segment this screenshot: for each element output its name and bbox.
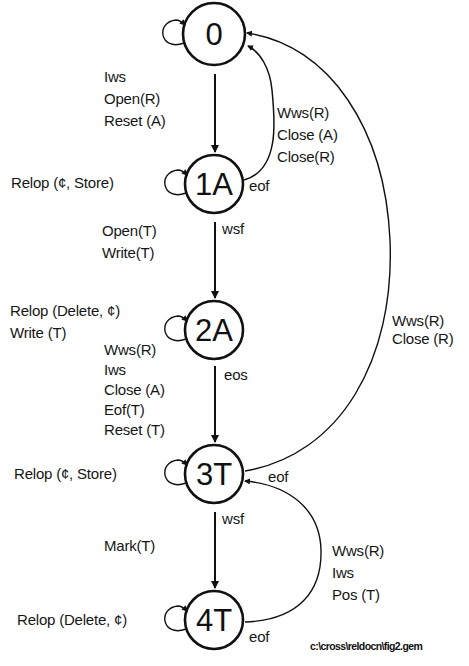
label-3t-to-4t: Mark(T) xyxy=(104,535,155,557)
self-loop-0 xyxy=(163,20,185,45)
label-1a-to-0-condition: eof xyxy=(249,175,269,197)
label-3t-to-0-condition: eof xyxy=(268,466,288,488)
arrow-4t-to-3t xyxy=(245,481,321,622)
action-text: Pos (T) xyxy=(332,584,384,606)
label-1a-to-2a-condition: wsf xyxy=(222,218,244,240)
label-4t-to-3t-condition: eof xyxy=(249,626,269,648)
label-3t-to-4t-condition: wsf xyxy=(222,508,244,530)
arrow-1a-to-0 xyxy=(244,46,274,180)
self-loop-1a xyxy=(165,170,187,195)
action-text: Wws(R) xyxy=(332,540,384,562)
state-2a-label: 2A xyxy=(195,313,233,348)
action-text: Relop (Delete, ¢) xyxy=(10,300,120,322)
action-text: Eof(T) xyxy=(104,400,165,420)
state-3t: 3T xyxy=(185,445,243,503)
action-text: Open(T) xyxy=(102,220,156,242)
label-loop-2a: Relop (Delete, ¢) Write (T) xyxy=(10,300,120,344)
label-3t-to-0: Wws(R) Close (R) xyxy=(392,310,454,350)
self-loop-3t xyxy=(165,460,187,485)
action-text: Reset (T) xyxy=(104,420,165,440)
action-text: Iws xyxy=(332,562,384,584)
action-text: Close (A) xyxy=(104,380,165,400)
state-3t-label: 3T xyxy=(196,457,232,492)
action-text: Open(R) xyxy=(104,88,166,110)
state-1a: 1A xyxy=(185,155,243,213)
label-1a-to-2a: Open(T) Write(T) xyxy=(102,220,156,264)
action-text: Write(T) xyxy=(102,242,156,264)
action-text: Mark(T) xyxy=(104,535,155,557)
label-0-to-1a: Iws Open(R) Reset (A) xyxy=(104,66,166,132)
state-1a-label: 1A xyxy=(195,167,233,202)
label-loop-4t: Relop (Delete, ¢) xyxy=(17,609,127,631)
action-text: Wws(R) xyxy=(104,340,165,360)
arrow-3t-to-0 xyxy=(245,33,390,471)
action-text: Iws xyxy=(104,360,165,380)
action-text: Reset (A) xyxy=(104,110,166,132)
file-path-caption: c:\cross\reldocn\fig2.gem xyxy=(310,640,422,652)
action-text: Wws(R) xyxy=(277,102,338,124)
self-loop-2a xyxy=(165,316,187,341)
state-2a: 2A xyxy=(185,301,243,359)
action-text: Iws xyxy=(104,66,166,88)
self-loop-4t xyxy=(165,606,187,631)
label-2a-to-3t: Wws(R) Iws Close (A) Eof(T) Reset (T) xyxy=(104,340,165,440)
state-4t: 4T xyxy=(185,591,243,649)
label-loop-3t: Relop (¢, Store) xyxy=(14,463,117,485)
state-0-label: 0 xyxy=(205,17,222,52)
label-4t-to-3t: Wws(R) Iws Pos (T) xyxy=(332,540,384,606)
action-text: Close (A) xyxy=(277,124,338,146)
label-loop-1a: Relop (¢, Store) xyxy=(11,172,114,194)
action-text: Close(R) xyxy=(277,146,338,168)
state-0: 0 xyxy=(183,3,245,65)
label-2a-to-3t-condition: eos xyxy=(224,364,248,386)
label-1a-to-0: Wws(R) Close (A) Close(R) xyxy=(277,102,338,168)
state-4t-label: 4T xyxy=(196,603,232,638)
action-text: Close (R) xyxy=(392,328,454,350)
